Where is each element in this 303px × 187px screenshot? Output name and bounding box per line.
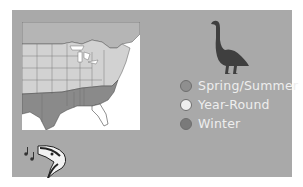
legend-label: Year-Round: [198, 97, 270, 112]
year-round-swatch-icon: [180, 99, 192, 111]
legend-label: Winter: [198, 116, 240, 131]
range-map: [22, 22, 140, 130]
goose-silhouette-icon: [207, 18, 251, 76]
winter-swatch-icon: [180, 118, 192, 130]
bird-song-icon[interactable]: [22, 142, 74, 178]
spring-summer-swatch-icon: [180, 80, 192, 92]
legend-item-winter: Winter: [180, 114, 298, 133]
us-map-icon: [22, 22, 140, 130]
legend: Spring/Summer Year-Round Winter: [180, 76, 298, 133]
legend-label: Spring/Summer: [198, 78, 298, 93]
range-map-card: Spring/Summer Year-Round Winter: [12, 10, 292, 177]
legend-item-year-round: Year-Round: [180, 95, 298, 114]
legend-item-spring-summer: Spring/Summer: [180, 76, 298, 95]
